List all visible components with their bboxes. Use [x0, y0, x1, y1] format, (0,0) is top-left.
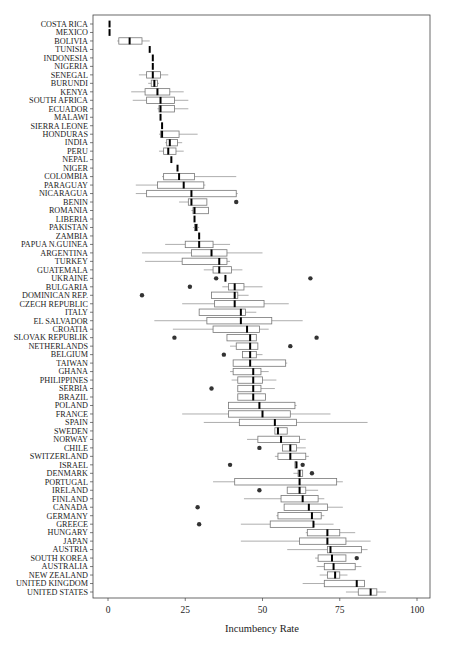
outlier-point — [140, 293, 144, 297]
x-tick-label: 25 — [181, 605, 191, 615]
outlier-point — [228, 463, 232, 467]
x-tick-label: 100 — [410, 605, 425, 615]
outlier-point — [195, 505, 199, 509]
iqr-box — [238, 394, 266, 400]
outlier-point — [222, 352, 226, 356]
iqr-box — [213, 326, 259, 332]
iqr-box — [258, 436, 300, 442]
iqr-box — [284, 504, 327, 510]
iqr-box — [229, 284, 244, 290]
iqr-box — [167, 139, 178, 145]
x-tick-label: 0 — [106, 605, 111, 615]
box-row: FRANCE — [56, 410, 331, 419]
x-tick-label: 50 — [258, 605, 268, 615]
box-row: GREECE — [56, 520, 333, 529]
iqr-box — [207, 318, 272, 324]
outlier-point — [314, 335, 318, 339]
outlier-point — [172, 335, 176, 339]
box-row: CZECH REPUBLIC — [20, 300, 289, 309]
iqr-box — [229, 402, 295, 408]
box-row: IRELAND — [52, 486, 318, 495]
iqr-box — [161, 131, 180, 137]
box-row: HUNGARY — [48, 528, 356, 537]
box-row: AUSTRALIA — [42, 562, 362, 571]
outlier-point — [214, 276, 218, 280]
iqr-box — [287, 487, 306, 493]
iqr-box — [281, 496, 318, 502]
iqr-box — [307, 529, 339, 535]
iqr-box — [278, 513, 321, 519]
iqr-box — [239, 419, 296, 425]
box-row: BRAZIL — [58, 393, 265, 402]
x-tick-label: 75 — [335, 605, 345, 615]
iqr-box — [157, 182, 203, 188]
iqr-box — [238, 385, 261, 391]
iqr-box — [238, 377, 263, 383]
box-row: GHANA — [58, 367, 268, 376]
outlier-point — [288, 344, 292, 348]
iqr-box — [227, 334, 256, 340]
box-row: NORWAY — [53, 435, 305, 444]
outlier-point — [209, 386, 213, 390]
box-row: POLAND — [55, 401, 297, 410]
box-row: TAIWAN — [56, 359, 287, 368]
iqr-box — [191, 250, 227, 256]
box-row: CANADA — [53, 503, 343, 512]
iqr-box — [229, 411, 291, 417]
iqr-box — [182, 258, 227, 264]
iqr-box — [213, 267, 232, 273]
iqr-box — [233, 368, 261, 374]
iqr-box — [235, 479, 337, 485]
boxplot-rows: COSTA RICAMEXICOBOLIVIATUNISIAINDONESIAN… — [14, 20, 386, 597]
iqr-box — [215, 301, 264, 307]
iqr-box — [327, 546, 361, 552]
box-row: BENIN — [63, 198, 238, 207]
box-row: JAPAN — [63, 537, 370, 546]
outlier-point — [197, 522, 201, 526]
box-row: ITALY — [65, 308, 256, 317]
iqr-box — [324, 563, 355, 569]
x-axis-label: Incumbency Rate — [225, 623, 299, 634]
box-row: SERBIA — [59, 384, 275, 393]
box-row: CHILE — [64, 444, 306, 453]
iqr-box — [358, 589, 377, 595]
outlier-point — [257, 446, 261, 450]
box-row: UKRAINE — [51, 274, 312, 283]
iqr-box — [270, 521, 313, 527]
iqr-box — [275, 428, 287, 434]
outlier-point — [300, 463, 304, 467]
box-row: UNITED STATES — [27, 588, 386, 597]
iqr-box — [324, 580, 364, 586]
outlier-point — [257, 488, 261, 492]
outlier-point — [308, 276, 312, 280]
iqr-box — [327, 572, 339, 578]
box-row: SPAIN — [65, 418, 367, 427]
outlier-point — [310, 471, 314, 475]
iqr-box — [199, 309, 245, 315]
outlier-point — [188, 285, 192, 289]
box-row: PORTUGAL — [45, 478, 343, 487]
iqr-box — [300, 538, 346, 544]
iqr-box — [233, 360, 286, 366]
country-label: UNITED STATES — [27, 588, 88, 597]
box-row: SWEDEN — [54, 427, 287, 436]
x-axis: 0255075100 — [106, 598, 425, 615]
outlier-point — [355, 556, 359, 560]
iqr-box — [278, 453, 306, 459]
outlier-point — [234, 200, 238, 204]
box-row: GERMANY — [47, 512, 325, 521]
box-row: ISRAEL — [59, 461, 305, 470]
iqr-box — [236, 343, 258, 349]
iqr-box — [164, 148, 176, 154]
box-row: AUSTRIA — [53, 545, 368, 554]
boxplot-chart: COSTA RICAMEXICOBOLIVIATUNISIAINDONESIAN… — [0, 0, 449, 645]
